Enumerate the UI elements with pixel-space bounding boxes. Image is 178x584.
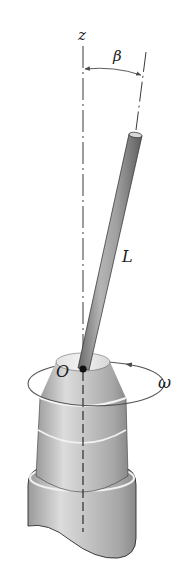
angle-beta-dimension	[85, 68, 141, 75]
angle-beta-label: β	[112, 47, 122, 65]
base-support	[28, 353, 136, 558]
pivot-point-O	[79, 365, 86, 372]
slender-rod	[78, 132, 142, 370]
origin-label: O	[56, 362, 69, 381]
base-body	[36, 398, 128, 492]
angular-velocity-label: ω	[158, 373, 171, 392]
rod-length-label: L	[121, 247, 133, 266]
rod-axis-extension	[136, 52, 146, 130]
z-axis-label: z	[77, 26, 86, 44]
rotating-rod-diagram: z β L O ω	[0, 0, 178, 584]
